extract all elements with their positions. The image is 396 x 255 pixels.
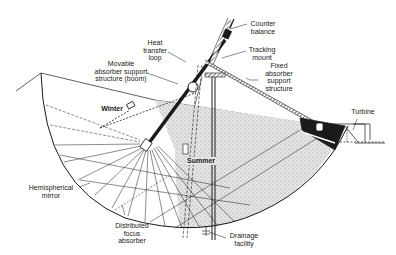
label-counter-balance: Counter balance (243, 20, 283, 35)
solar-bowl-diagram (0, 0, 396, 255)
counter-balance-arm (208, 18, 234, 67)
bowl-fill (155, 100, 345, 228)
label-summer: Summer (186, 157, 216, 165)
label-tracking-mount: Tracking mount (242, 46, 282, 61)
label-hemispherical-mirror: Hemispherical mirror (26, 184, 76, 199)
turbine-structure (340, 124, 384, 142)
label-turbine: Turbine (347, 108, 379, 116)
label-fixed-absorber-support: Fixed absorber support structure (262, 62, 296, 92)
label-movable-boom: Movable absorber support structure (boom… (90, 60, 152, 83)
label-winter: Winter (98, 105, 126, 113)
label-distributed-focus-absorber: Distributed focus absorber (112, 222, 152, 245)
label-heat-transfer-loop: Heat transfer loop (140, 39, 170, 62)
label-drainage-facility: Drainage facility (224, 232, 264, 247)
